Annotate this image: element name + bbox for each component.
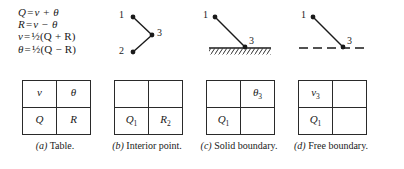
node-1-dot: [213, 15, 218, 20]
table-row: Q1: [299, 108, 367, 135]
boundary-hatching: [209, 49, 271, 55]
interior-node-label-2: 2: [119, 46, 124, 56]
equation-2-rhs: ν − θ: [33, 18, 57, 30]
node-1-dot: [311, 15, 316, 20]
caption-a-text: Table.: [50, 140, 75, 151]
cell-subscript: 3: [258, 93, 262, 102]
table-row: ν θ: [23, 81, 91, 108]
equation-line-3: ν=½(Q + R): [18, 30, 113, 42]
caption-b: (b) Interior point.: [101, 140, 193, 152]
cell-symbol: Q: [310, 113, 318, 125]
node-3-dot: [150, 33, 155, 38]
cell-b-r0c1: [149, 81, 183, 108]
cell-a-r1c1: R: [57, 108, 91, 135]
equation-line-2: R=ν − θ: [18, 18, 113, 30]
cell-c-r0c0: [207, 81, 241, 108]
cell-symbol: Q: [36, 113, 44, 125]
cell-subscript: 1: [134, 120, 138, 129]
solid-node-label-1: 1: [203, 10, 208, 20]
segment-2-3: [133, 35, 152, 52]
free-node-label-3: 3: [347, 36, 352, 46]
cell-d-r0c0: ν3: [299, 81, 333, 108]
table-b: Q1 R2: [114, 80, 183, 135]
interior-node-label-3: 3: [157, 28, 162, 38]
equation-block: Q=ν + θ R=ν − θ ν=½(Q + R) θ=½(Q − R): [18, 6, 113, 55]
cell-symbol: R: [160, 113, 167, 125]
caption-b-text: Interior point.: [126, 140, 182, 151]
caption-d: (d) Free boundary.: [285, 140, 377, 152]
caption-d-tag: (d): [294, 140, 306, 151]
free-node-label-1: 1: [301, 10, 306, 20]
cell-symbol: Q: [126, 113, 134, 125]
table-row: ν3: [299, 81, 367, 108]
cell-a-r1c0: Q: [23, 108, 57, 135]
cell-subscript: 2: [167, 120, 171, 129]
equation-line-1: Q=ν + θ: [18, 6, 113, 18]
equation-3-relation: =: [23, 30, 31, 42]
cell-d-r1c0: Q1: [299, 108, 333, 135]
caption-d-text: Free boundary.: [308, 140, 368, 151]
solid-boundary-svg: [203, 6, 275, 64]
table-row: Q R: [23, 108, 91, 135]
cell-a-r0c0: ν: [23, 81, 57, 108]
diagram-solid-boundary: 1 3: [203, 6, 275, 64]
segment-1-3: [313, 17, 343, 47]
table-row: Q1 R2: [115, 108, 183, 135]
cell-subscript: 1: [226, 120, 230, 129]
cell-subscript: 3: [316, 93, 320, 102]
segment-1-3: [215, 17, 245, 47]
table-c: θ3 Q1: [206, 80, 275, 135]
node-3-dot: [243, 45, 248, 50]
table-row: Q1: [207, 108, 275, 135]
table-a: ν θ Q R: [22, 80, 91, 135]
node-3-dot: [341, 45, 346, 50]
node-1-dot: [131, 15, 136, 20]
cell-b-r0c0: [115, 81, 149, 108]
table-row: θ3: [207, 81, 275, 108]
equation-1-rhs: ν + θ: [35, 6, 59, 18]
cell-subscript: 1: [318, 120, 322, 129]
diagram-interior-point: 1 2 3: [113, 6, 173, 64]
solid-node-label-3: 3: [249, 36, 254, 46]
equation-4-rhs: ½(Q − R): [32, 43, 76, 55]
segment-1-3: [133, 17, 152, 35]
caption-a-tag: (a): [36, 140, 48, 151]
cell-c-r1c1: [241, 108, 275, 135]
equation-4-relation: =: [24, 43, 32, 55]
equation-2-lhs: R: [18, 18, 25, 30]
cell-b-r1c1: R2: [149, 108, 183, 135]
caption-b-tag: (b): [112, 140, 124, 151]
interior-node-label-1: 1: [119, 10, 124, 20]
equation-line-4: θ=½(Q − R): [18, 43, 113, 55]
equation-3-rhs: ½(Q + R): [32, 30, 76, 42]
table-d: ν3 Q1: [298, 80, 367, 135]
caption-c-tag: (c): [201, 140, 212, 151]
cell-a-r0c1: θ: [57, 81, 91, 108]
figure-panel: Q=ν + θ R=ν − θ ν=½(Q + R) θ=½(Q − R) 1 …: [0, 0, 404, 169]
node-2-dot: [131, 50, 136, 55]
cell-d-r0c1: [333, 81, 367, 108]
caption-a: (a) Table.: [9, 140, 101, 152]
cell-symbol: Q: [218, 113, 226, 125]
equation-1-lhs: Q: [18, 6, 26, 18]
cell-d-r1c1: [333, 108, 367, 135]
cell-symbol: R: [70, 113, 77, 125]
caption-c-text: Solid boundary.: [214, 140, 277, 151]
cell-c-r0c1: θ3: [241, 81, 275, 108]
cell-c-r1c0: Q1: [207, 108, 241, 135]
cell-symbol: ν: [37, 86, 42, 98]
cell-b-r1c0: Q1: [115, 108, 149, 135]
equation-4-lhs: θ: [18, 43, 24, 55]
caption-c: (c) Solid boundary.: [193, 140, 285, 152]
diagram-free-boundary: 1 3: [293, 6, 373, 64]
equation-1-relation: =: [26, 6, 34, 18]
cell-symbol: θ: [71, 86, 76, 98]
table-row: [115, 81, 183, 108]
